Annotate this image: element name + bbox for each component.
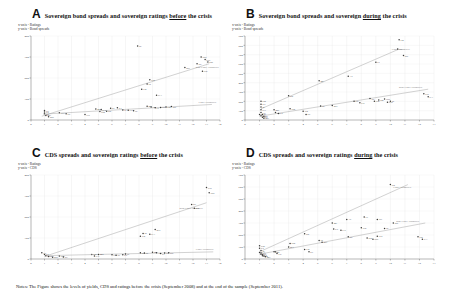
svg-text:RO: RO <box>50 116 54 119</box>
svg-text:400: 400 <box>25 35 30 38</box>
svg-text:FI: FI <box>366 216 368 219</box>
svg-text:0: 0 <box>241 258 243 261</box>
panel-d-letter: D <box>246 147 255 159</box>
svg-text:BE: BE <box>334 222 338 225</box>
svg-text:UK: UK <box>196 207 200 210</box>
svg-text:RU: RU <box>323 241 327 244</box>
svg-text:UA: UA <box>151 233 155 236</box>
svg-text:100: 100 <box>25 237 30 240</box>
svg-text:EE: EE <box>335 228 339 231</box>
svg-text:FI: FI <box>377 61 379 64</box>
svg-text:900: 900 <box>239 35 244 38</box>
svg-text:AT: AT <box>348 218 352 221</box>
svg-text:10: 10 <box>165 123 168 126</box>
svg-text:6: 6 <box>332 262 334 265</box>
svg-text:ES: ES <box>130 109 134 112</box>
svg-text:8: 8 <box>138 123 140 126</box>
svg-text:BG: BG <box>265 117 269 120</box>
panel-a-title: Sovereign bond spreads and sovereign rat… <box>45 12 212 20</box>
svg-text:SK: SK <box>290 95 293 98</box>
panel-b-axis-notes: x-axis - Ratings y-axis - Bond spreads <box>232 23 263 32</box>
svg-text:IT: IT <box>127 253 130 256</box>
svg-text:SI: SI <box>112 107 114 110</box>
svg-text:1: 1 <box>259 262 261 265</box>
svg-text:0: 0 <box>27 258 29 261</box>
svg-text:SE: SE <box>193 203 196 206</box>
panel-d-title: CDS spreads and sovereign ratings during… <box>259 151 398 159</box>
svg-text:BG: BG <box>267 256 271 259</box>
svg-text:500: 500 <box>239 73 244 76</box>
svg-text:400: 400 <box>239 82 244 85</box>
svg-text:9: 9 <box>375 262 377 265</box>
svg-text:EMU countries: EMU countries <box>198 100 217 104</box>
svg-text:SI: SI <box>117 254 119 257</box>
svg-text:1: 1 <box>44 123 46 126</box>
svg-text:10: 10 <box>389 123 392 126</box>
svg-text:CZ: CZ <box>361 102 365 105</box>
svg-text:3: 3 <box>71 123 73 126</box>
svg-text:UK: UK <box>204 70 208 73</box>
svg-text:2: 2 <box>273 123 275 126</box>
panel-a-axis-notes: x-axis - Ratings y-axis - Bond spreads <box>18 23 49 32</box>
svg-text:4: 4 <box>84 262 86 265</box>
svg-text:10: 10 <box>389 262 392 265</box>
svg-text:IS: IS <box>144 232 147 235</box>
svg-text:DE: DE <box>170 252 174 255</box>
svg-text:TR: TR <box>306 248 310 251</box>
panel-a-letter: A <box>32 8 41 20</box>
panel-b-title: Sovereign bond spreads and sovereign dur… <box>259 12 407 20</box>
svg-text:DK: DK <box>380 99 384 102</box>
svg-text:SE: SE <box>198 63 201 66</box>
svg-text:BE: BE <box>321 80 325 83</box>
svg-text:GR: GR <box>151 79 155 82</box>
svg-text:HR: HR <box>291 108 295 111</box>
svg-text:700: 700 <box>239 174 244 177</box>
figure-sovereign-spreads-ratings: A Sovereign bond spreads and sovereign r… <box>0 0 452 297</box>
svg-text:8: 8 <box>138 262 140 265</box>
svg-text:FR: FR <box>392 184 395 187</box>
svg-text:6: 6 <box>111 262 113 265</box>
svg-text:IT: IT <box>124 109 127 112</box>
svg-text:non-EMU countries: non-EMU countries <box>196 65 220 69</box>
svg-text:non-EMU countries: non-EMU countries <box>396 219 420 223</box>
svg-text:5: 5 <box>98 262 100 265</box>
svg-text:9: 9 <box>375 123 377 126</box>
svg-text:CY: CY <box>103 109 107 112</box>
svg-text:PL: PL <box>310 251 313 254</box>
svg-text:IS: IS <box>149 83 152 86</box>
svg-text:UK: UK <box>376 100 380 103</box>
svg-text:12: 12 <box>418 123 421 126</box>
panel-b-header: B Sovereign bond spreads and sovereign d… <box>246 8 407 22</box>
svg-text:UA: UA <box>158 94 162 97</box>
svg-text:0: 0 <box>30 262 32 265</box>
panel-d: D CDS spreads and sovereign ratings duri… <box>228 145 442 283</box>
svg-text:4: 4 <box>302 262 304 265</box>
svg-text:RU: RU <box>157 229 161 232</box>
svg-text:200: 200 <box>239 234 244 237</box>
svg-text:US: US <box>419 236 423 239</box>
svg-text:300: 300 <box>25 195 30 198</box>
svg-text:200: 200 <box>239 101 244 104</box>
svg-text:400: 400 <box>25 174 30 177</box>
svg-text:0: 0 <box>244 262 246 265</box>
svg-text:7: 7 <box>346 123 348 126</box>
svg-text:2: 2 <box>57 123 59 126</box>
svg-text:0: 0 <box>244 123 246 126</box>
panel-a-header: A Sovereign bond spreads and sovereign r… <box>32 8 212 22</box>
svg-text:2: 2 <box>273 262 275 265</box>
svg-text:11: 11 <box>178 262 181 265</box>
svg-text:PL: PL <box>68 113 71 116</box>
svg-text:600: 600 <box>239 63 244 66</box>
svg-text:12: 12 <box>418 262 421 265</box>
svg-text:0: 0 <box>30 123 32 126</box>
svg-text:RO: RO <box>54 256 58 259</box>
svg-text:SE: SE <box>371 98 374 101</box>
svg-text:CZ: CZ <box>86 114 90 117</box>
svg-text:US: US <box>425 93 429 96</box>
svg-text:AT: AT <box>350 75 354 78</box>
svg-text:NL: NL <box>399 48 403 51</box>
svg-text:14: 14 <box>219 123 222 126</box>
svg-text:14: 14 <box>219 262 222 265</box>
svg-text:FR: FR <box>167 106 170 109</box>
svg-text:100: 100 <box>239 110 244 113</box>
